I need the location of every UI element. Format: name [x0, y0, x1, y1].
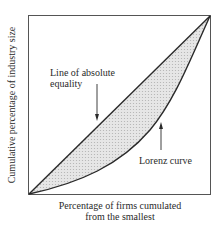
x-axis-label-line2: from the smallest — [28, 211, 212, 222]
y-axis-label: Cumulative percentage of industry size — [6, 15, 17, 195]
equality-arrowhead-icon — [95, 114, 99, 121]
lorenz-label: Lorenz curve — [139, 155, 192, 166]
x-axis-label: Percentage of firms cumulated from the s… — [28, 200, 212, 222]
equality-label-line1: Line of absolute — [50, 67, 115, 78]
lorenz-diagram — [0, 0, 223, 228]
x-axis-label-line1: Percentage of firms cumulated — [28, 200, 212, 211]
equality-label-line2: equality — [50, 78, 82, 89]
lorenz-arrowhead-icon — [159, 122, 163, 129]
equality-line — [29, 16, 210, 194]
